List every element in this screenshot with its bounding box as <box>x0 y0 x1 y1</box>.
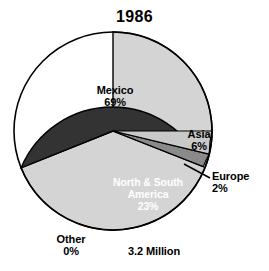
slice-label-nsamerica-percent: 23% <box>83 201 213 213</box>
slice-label-nsamerica-line1: North & South <box>113 176 183 188</box>
slice-label-other-name: Other <box>57 233 86 245</box>
slice-label-asia-name: Asia <box>188 128 211 140</box>
slice-label-europe: Europe 2% <box>212 170 269 195</box>
pie-chart-figure: 1986 Mexico 69% Asia 6% Europe 2% North … <box>0 0 269 271</box>
slice-label-europe-name: Europe <box>212 170 249 182</box>
slice-label-mexico-percent: 69% <box>63 96 167 108</box>
slice-label-other-percent: 0% <box>41 245 101 257</box>
slice-label-north-south-america: North & South America 23% <box>83 177 213 212</box>
slice-label-asia: Asia 6% <box>168 128 230 153</box>
chart-total-annotation: 3.2 Million <box>100 245 208 257</box>
slice-label-other: Other 0% <box>41 233 101 258</box>
slice-label-asia-percent: 6% <box>168 140 230 152</box>
slice-label-mexico: Mexico 69% <box>63 84 167 109</box>
chart-title: 1986 <box>0 8 269 26</box>
slice-label-europe-percent: 2% <box>212 182 269 194</box>
slice-label-nsamerica-line2: America <box>83 189 213 201</box>
slice-label-mexico-name: Mexico <box>97 84 134 96</box>
